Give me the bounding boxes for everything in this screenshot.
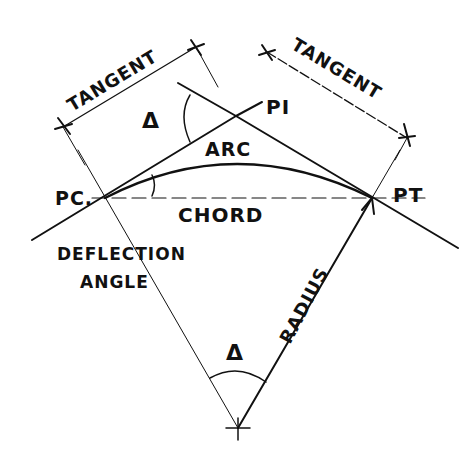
tangent-right-label: TANGENT — [288, 33, 386, 103]
center-point-icon — [226, 418, 250, 440]
tangent-right-ext — [395, 138, 407, 160]
arc-label: ARC — [205, 138, 251, 160]
radius-label: RADIUS — [275, 264, 333, 347]
tangent-left-label: TANGENT — [63, 45, 161, 115]
forward-tangent-line — [236, 116, 458, 248]
curve-diagram: TANGENT TANGENT Δ PI ARC PC. CHORD PT DE… — [0, 0, 474, 463]
tangent-left-ext-a — [63, 127, 85, 165]
delta-angle-arc-top — [184, 95, 190, 142]
pi-label: PI — [266, 95, 290, 119]
delta-angle-arc-bottom — [210, 371, 266, 382]
pt-label: PT — [393, 183, 423, 207]
pc-label: PC. — [55, 187, 93, 209]
chord-label: CHORD — [178, 203, 263, 227]
deflection-label-line1: DEFLECTION — [57, 244, 186, 264]
tangent-extension-line — [178, 83, 236, 116]
pi-tick — [236, 102, 262, 116]
deflection-label-line2: ANGLE — [80, 272, 149, 292]
delta-top-label: Δ — [142, 108, 160, 133]
delta-bottom-label: Δ — [226, 340, 244, 365]
curve-arc — [105, 164, 372, 198]
